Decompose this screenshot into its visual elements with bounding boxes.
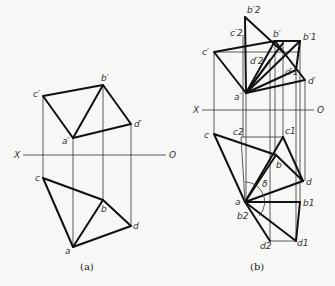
top-view-quad-b <box>214 134 303 202</box>
point-label: b <box>276 160 282 170</box>
drawing-line <box>245 202 296 241</box>
point-label: d′1 <box>285 67 298 77</box>
point-label: (b) <box>250 261 264 272</box>
point-label: d2 <box>260 241 272 251</box>
point-label: δ <box>262 179 268 189</box>
point-label: c1 <box>285 126 296 136</box>
drawing-line <box>73 85 103 138</box>
point-label: c′ <box>202 47 209 57</box>
point-label: b′ <box>273 29 281 39</box>
drawing-line <box>246 41 275 93</box>
point-label: d <box>306 177 312 187</box>
point-label: c <box>35 173 40 183</box>
point-label: O <box>169 150 176 160</box>
drawing-line <box>296 202 300 241</box>
drawing: c′ b′ d′ a′ X O c b d a (a) <box>0 0 335 286</box>
point-label: b2 <box>237 211 249 221</box>
point-label: O <box>317 105 324 115</box>
point-label: a′ <box>62 136 70 146</box>
point-label: a <box>65 246 71 256</box>
figure-b: b′2 c′2 b′ b′1 c′ d′2 d′1 d′ a′ X O c c2… <box>192 5 324 272</box>
point-label: c′ <box>33 89 40 99</box>
point-label: X <box>192 105 200 115</box>
point-label: d′ <box>134 119 142 129</box>
point-label: d <box>133 221 139 231</box>
point-label: b <box>101 204 107 214</box>
point-label: a <box>235 197 241 207</box>
point-label: d′ <box>308 76 316 86</box>
point-label: b1 <box>303 198 314 208</box>
point-label: c <box>204 130 209 140</box>
point-label: c′2 <box>230 28 243 38</box>
point-label: b′2 <box>247 5 261 15</box>
point-label: c2 <box>233 127 244 137</box>
drawing-line <box>245 202 270 241</box>
descriptive-geometry-figure: c′ b′ d′ a′ X O c b d a (a) <box>0 0 335 286</box>
point-label: b′ <box>101 73 109 83</box>
point-label: d1 <box>297 238 308 248</box>
top-view-quad <box>43 178 131 247</box>
drawing-line <box>73 200 103 247</box>
point-label: (a) <box>80 261 94 272</box>
point-label: d′2 <box>250 56 264 66</box>
point-label: b′1 <box>303 32 316 42</box>
point-label: a′ <box>234 92 242 102</box>
figure-a: c′ b′ d′ a′ X O c b d a (a) <box>13 73 176 272</box>
point-label: X <box>13 150 21 160</box>
drawing-line <box>245 17 246 93</box>
